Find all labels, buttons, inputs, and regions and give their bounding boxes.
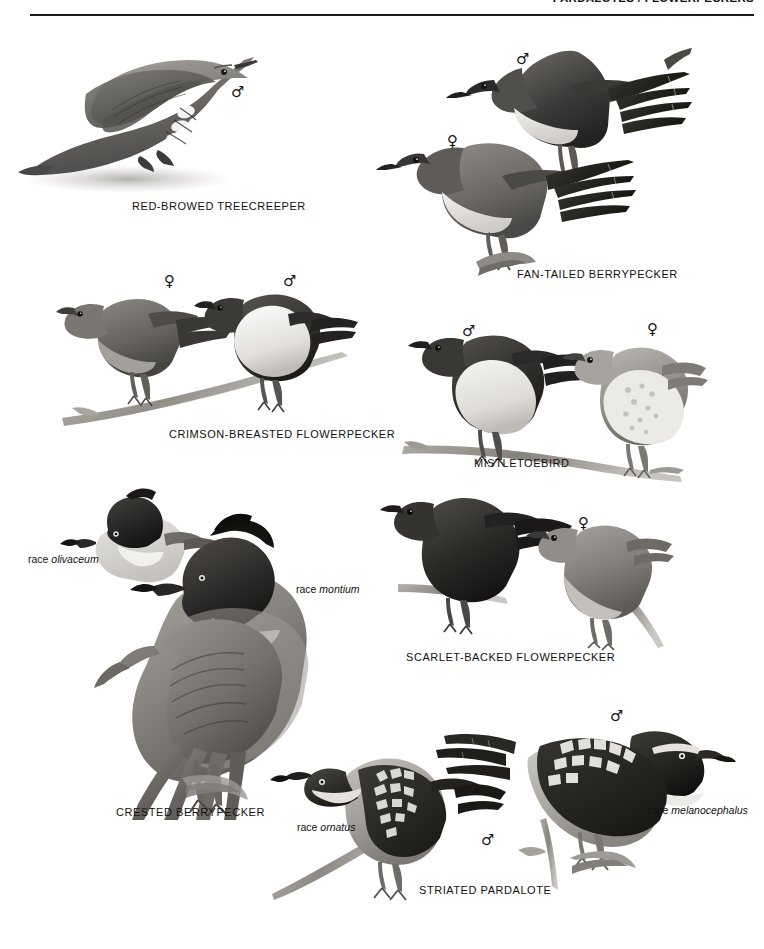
sex-symbol-female: ♀ [578,516,589,531]
caption-red-browed-treecreeper: RED-BROWED TREECREEPER [132,200,306,212]
race-label-ornatus: race ornatus [297,821,355,833]
race-name: olivaceum [51,553,98,565]
caption-striated-pardalote: STRIATED PARDALOTE [419,884,551,896]
sex-symbol-male: ♂ [481,833,494,848]
race-name: ornatus [320,821,355,833]
caption-crested-berrypecker: CRESTED BERRYPECKER [116,806,265,818]
race-name: montium [319,583,359,595]
header-rule [30,14,754,16]
caption-mistletoebird: MISTLETOEBIRD [474,457,570,469]
running-header: PARDALOTES / FLOWERPECKERS [553,0,754,2]
race-prefix: race [28,553,48,565]
sex-symbol-male: ♂ [283,274,296,289]
race-prefix: race [296,583,316,595]
race-label-melanocephalus: race melanocephalus [648,804,748,816]
sex-symbol-female: ♀ [164,274,175,289]
caption-crimson-breasted-flowerpecker: CRIMSON-BREASTED FLOWERPECKER [169,428,395,440]
race-prefix: race [297,821,317,833]
caption-scarlet-backed-flowerpecker: SCARLET-BACKED FLOWERPECKER [406,651,615,663]
illustration-scarlet-backed-flowerpecker [396,480,696,650]
sex-symbol-female: ♀ [647,322,658,337]
field-guide-plate: PARDALOTES / FLOWERPECKERS [0,0,764,949]
race-label-olivaceum: race olivaceum [28,553,99,565]
sex-symbol-male: ♂ [610,709,623,724]
illustration-red-browed-treecreeper [8,24,268,194]
race-name: melanocephalus [671,804,747,816]
illustration-striated-pardalote-melanocephalus [444,700,734,890]
sex-symbol-male: ♂ [516,52,529,67]
caption-fan-tailed-berrypecker: FAN-TAILED BERRYPECKER [517,268,678,280]
sex-symbol-male: ♂ [462,324,475,339]
sex-symbol-male: ♂ [231,85,244,100]
race-prefix: race [648,804,668,816]
race-label-montium: race montium [296,583,360,595]
illustration-crimson-breasted-flowerpecker [60,268,360,428]
sex-symbol-female: ♀ [447,134,458,149]
illustration-fan-tailed-berrypecker [372,40,752,280]
